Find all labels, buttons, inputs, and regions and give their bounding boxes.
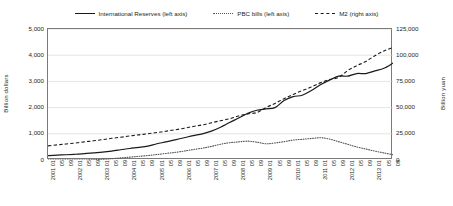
- x-tick-1: 05: [59, 160, 65, 166]
- x-tick-16: 05: [195, 160, 201, 166]
- legend-item-pbc-bills: PBC bills (left axis): [213, 10, 289, 17]
- x-tick-31: 05: [331, 160, 337, 166]
- x-tick-10: 05: [140, 160, 146, 166]
- x-tick-26: 09: [286, 160, 292, 166]
- x-tick-38: 09: [395, 160, 401, 166]
- x-tick-28: 05: [304, 160, 310, 166]
- x-tick-24: 2009 01: [267, 160, 273, 180]
- y-tick-left-4: 4,000: [29, 51, 44, 58]
- y-tick-right-5: 125,000: [396, 25, 418, 32]
- x-tick-4: 05: [86, 160, 92, 166]
- legend-item-m2: M2 (right axis): [315, 10, 378, 17]
- x-tick-12: 2005 01: [159, 160, 165, 180]
- y-tick-right-2: 50,000: [396, 103, 415, 110]
- chart-container: International Reserves (left axis) PBC b…: [0, 0, 453, 206]
- y-tick-left-2: 2,000: [29, 103, 44, 110]
- x-tick-18: 2007 01: [213, 160, 219, 180]
- x-tick-25: 05: [277, 160, 283, 166]
- x-tick-11: 09: [149, 160, 155, 166]
- legend-swatch-dotted-icon: [213, 11, 233, 16]
- x-tick-36: 2013 01: [376, 160, 382, 180]
- x-tick-0: 2001 01: [50, 160, 56, 180]
- y-tick-left-1: 1,000: [29, 129, 44, 136]
- y-axis-right-title: Billion yuan: [440, 64, 447, 124]
- legend-label-pbc-bills: PBC bills (left axis): [237, 10, 289, 17]
- x-tick-23: 09: [258, 160, 264, 166]
- x-tick-19: 05: [222, 160, 228, 166]
- x-tick-14: 09: [177, 160, 183, 166]
- x-tick-6: 2003 01: [104, 160, 110, 180]
- y-tick-left-0: 0: [41, 156, 44, 163]
- series-line-international-reserves: [48, 63, 393, 155]
- x-tick-13: 05: [168, 160, 174, 166]
- x-axis-ticks: 2001 0105092002 0105092003 0105092004 01…: [47, 160, 392, 206]
- legend-swatch-solid-icon: [75, 11, 95, 16]
- y-tick-right-3: 75,000: [396, 77, 415, 84]
- x-tick-17: 09: [204, 160, 210, 166]
- x-tick-2: 09: [68, 160, 74, 166]
- gridlines: [48, 29, 393, 134]
- x-tick-9: 2004 01: [131, 160, 137, 180]
- x-tick-3: 2002 01: [77, 160, 83, 180]
- x-tick-22: 05: [249, 160, 255, 166]
- series-line-pbc-bills: [48, 138, 393, 160]
- legend-label-international-reserves: International Reserves (left axis): [99, 10, 188, 17]
- y-axis-left-title: Billion dollars: [3, 64, 10, 124]
- chart-legend: International Reserves (left axis) PBC b…: [0, 6, 453, 20]
- legend-item-international-reserves: International Reserves (left axis): [75, 10, 188, 17]
- x-tick-15: 2006 01: [186, 160, 192, 180]
- y-tick-right-1: 25,000: [396, 129, 415, 136]
- legend-label-m2: M2 (right axis): [339, 10, 378, 17]
- x-tick-34: 05: [358, 160, 364, 166]
- x-tick-35: 09: [367, 160, 373, 166]
- x-tick-30: 2011 01: [322, 160, 328, 180]
- plot-area: [47, 28, 392, 159]
- x-tick-8: 09: [122, 160, 128, 166]
- series-canvas: [48, 29, 393, 160]
- legend-swatch-dashed-icon: [315, 11, 335, 16]
- x-tick-5: 09: [95, 160, 101, 166]
- series-line-m2: [48, 47, 393, 146]
- y-tick-right-4: 100,000: [396, 51, 418, 58]
- y-tick-left-5: 5,000: [29, 25, 44, 32]
- x-tick-21: 2008 01: [240, 160, 246, 180]
- x-tick-37: 05: [386, 160, 392, 166]
- x-tick-29: 09: [313, 160, 319, 166]
- x-tick-7: 05: [113, 160, 119, 166]
- x-tick-33: 2012 01: [349, 160, 355, 180]
- x-tick-20: 09: [231, 160, 237, 166]
- x-tick-27: 2010 01: [295, 160, 301, 180]
- y-tick-left-3: 3,000: [29, 77, 44, 84]
- x-tick-32: 09: [340, 160, 346, 166]
